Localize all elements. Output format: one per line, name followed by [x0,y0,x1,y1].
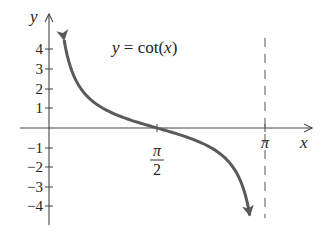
svg-text:4: 4 [36,41,44,57]
pi-over-2-numerator: π [153,142,162,159]
y-axis-label: y [28,7,38,26]
x-axis-label: x [299,133,308,152]
pi-over-2-denominator: 2 [153,161,161,178]
svg-text:3: 3 [36,61,44,77]
equation-label: y = cot(x) [110,38,177,57]
svg-text:−2: −2 [27,159,43,175]
svg-text:−1: −1 [27,140,43,156]
svg-text:−3: −3 [27,179,43,195]
pi-label: π [261,134,270,151]
svg-text:2: 2 [36,81,44,97]
svg-text:−4: −4 [27,198,43,214]
cot-graph: 4 3 2 1 −1 −2 −3 −4 y x π 2 π y = cot(x) [0,0,332,236]
svg-text:1: 1 [36,100,44,116]
